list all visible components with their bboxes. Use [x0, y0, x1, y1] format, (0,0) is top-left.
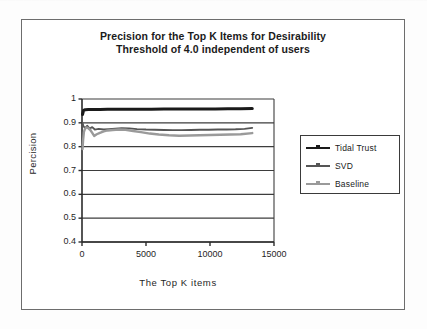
legend-label-baseline: Baseline	[335, 179, 369, 189]
legend-label-tidal-trust: Tidal Trust	[335, 143, 377, 153]
x-axis-title: The Top K items	[82, 277, 274, 288]
legend-swatch-tidal-trust	[306, 143, 330, 153]
legend-item-tidal-trust[interactable]: Tidal Trust	[306, 140, 377, 156]
y-axis-title: Percision	[27, 119, 38, 189]
x-tick-label-15000: 15000	[252, 249, 296, 259]
legend-item-baseline[interactable]: Baseline	[306, 176, 369, 192]
x-tick-label-0: 0	[60, 249, 104, 259]
legend-swatch-baseline	[306, 179, 330, 189]
legend-swatch-svd	[306, 161, 330, 171]
x-tick-label-10000: 10000	[188, 249, 232, 259]
y-tick-label-1: 1	[42, 93, 76, 103]
y-tick-label-0_5: 0.5	[42, 212, 76, 222]
chart-legend: Tidal Trust SVD Baseline	[300, 135, 400, 194]
legend-label-svd: SVD	[335, 161, 353, 171]
y-tick-label-0_7: 0.7	[42, 165, 76, 175]
y-tick-label-0_8: 0.8	[42, 141, 76, 151]
x-tick-label-5000: 5000	[124, 249, 168, 259]
y-tick-label-0_9: 0.9	[42, 117, 76, 127]
y-tick-label-0_6: 0.6	[42, 188, 76, 198]
y-tick-label-0_4: 0.4	[42, 236, 76, 246]
legend-item-svd[interactable]: SVD	[306, 158, 353, 174]
